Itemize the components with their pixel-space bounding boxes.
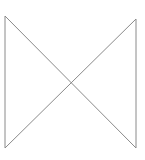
bowtie-diagram	[0, 0, 145, 160]
